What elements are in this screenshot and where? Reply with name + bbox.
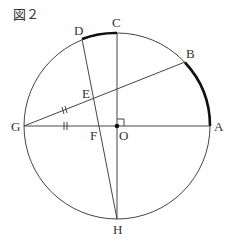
label-b: B (186, 46, 195, 61)
arc-dc (82, 33, 117, 39)
geometry-diagram: A B C D E F G H O (0, 0, 231, 243)
arc-ba (185, 63, 210, 127)
label-f: F (90, 128, 97, 143)
label-h: H (113, 222, 122, 237)
label-g: G (11, 119, 20, 134)
label-a: A (214, 119, 224, 134)
label-e: E (82, 86, 90, 101)
label-o: O (119, 128, 128, 143)
label-c: C (112, 15, 121, 30)
segment-gb (24, 62, 185, 126)
label-d: D (74, 23, 83, 38)
segment-dh (82, 39, 117, 219)
